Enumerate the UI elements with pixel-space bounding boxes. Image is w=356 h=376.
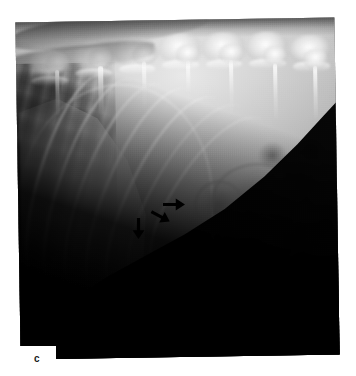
arrow-upper-right-icon — [163, 198, 185, 211]
arrow-lower-left-icon — [132, 218, 145, 239]
panel-label: c — [18, 346, 56, 370]
radiograph-image — [15, 18, 339, 360]
figure-panel: c — [0, 0, 356, 376]
radiograph-canvas — [15, 18, 339, 360]
